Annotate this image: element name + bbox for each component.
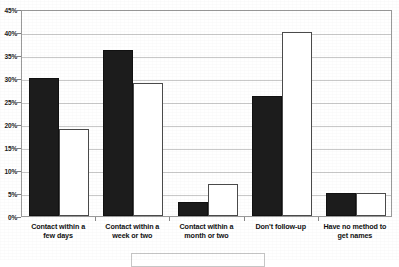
y-tick-label: 35% <box>5 53 17 60</box>
x-tick-mark <box>169 217 170 221</box>
bar <box>208 184 238 216</box>
y-tick-label: 40% <box>5 30 17 37</box>
x-axis-category-label: Contact within afew days <box>21 222 95 241</box>
y-tick-label: 25% <box>5 99 17 106</box>
bar <box>326 193 356 216</box>
x-axis-categories: Contact within afew daysContact within a… <box>21 217 392 257</box>
bar <box>103 50 133 216</box>
y-axis: 0%5%10%15%20%25%30%35%40%45% <box>0 10 19 217</box>
x-tick-mark <box>244 217 245 221</box>
x-axis-category-label: Contact within aweek or two <box>95 222 169 241</box>
x-axis-category-label: Contact within amonth or two <box>169 222 243 241</box>
y-tick-label: 20% <box>5 122 17 129</box>
y-tick-label: 15% <box>5 145 17 152</box>
bar <box>282 32 312 216</box>
bar <box>356 193 386 216</box>
x-tick-mark <box>318 217 319 221</box>
bar <box>59 129 89 216</box>
y-tick-label: 5% <box>8 191 17 198</box>
y-tick-label: 45% <box>5 7 17 14</box>
y-tick-label: 10% <box>5 168 17 175</box>
plot-area <box>21 10 392 217</box>
x-axis-category-label: Don't follow-up <box>244 222 318 231</box>
y-tick-label: 0% <box>8 214 17 221</box>
x-tick-mark <box>95 217 96 221</box>
bar <box>178 202 208 216</box>
bar <box>252 96 282 216</box>
y-tick-label: 30% <box>5 76 17 83</box>
legend-box <box>131 253 265 267</box>
x-axis-category-label: Have no method toget names <box>318 222 392 241</box>
bar <box>29 78 59 216</box>
bar <box>133 83 163 216</box>
bars-layer <box>22 11 391 216</box>
